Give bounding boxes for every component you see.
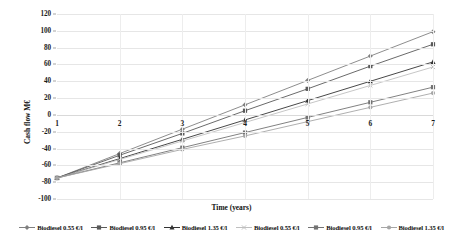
x-gridline — [182, 14, 183, 199]
y-axis-tick-label: 40 — [44, 77, 51, 85]
x-axis-tick-label: 7 — [431, 119, 435, 128]
legend-swatch-icon — [164, 224, 180, 231]
x-axis-tick-label: 4 — [243, 119, 247, 128]
y-axis-tick-label: 120 — [41, 10, 51, 18]
y-axis-tick-mark — [53, 14, 56, 15]
x-gridline — [120, 14, 121, 199]
x-axis-tick-label: 5 — [306, 119, 310, 128]
legend-label: Biodiesel 1.35 €/l — [399, 224, 444, 231]
legend-label: Biodiesel 1.35 €/l — [182, 224, 227, 231]
chart-legend: Biodiesel 0.55 €/lBiodiesel 0.95 €/lBiod… — [0, 224, 463, 231]
x-axis-tick-label: 6 — [368, 119, 372, 128]
legend-item[interactable]: Biodiesel 0.95 €/l — [308, 224, 371, 231]
legend-label: Biodiesel 0.55 €/l — [37, 224, 82, 231]
legend-swatch-icon — [91, 224, 107, 231]
y-axis-tick-mark — [53, 98, 56, 99]
y-axis-tick-mark — [53, 30, 56, 31]
legend-label: Biodiesel 0.95 €/l — [326, 224, 371, 231]
legend-item[interactable]: Biodiesel 1.35 €/l — [381, 224, 444, 231]
y-axis-tick-label: -20 — [42, 128, 51, 136]
legend-item[interactable]: Biodiesel 0.55 €/l — [19, 224, 82, 231]
x-gridline — [433, 14, 434, 199]
y-gridline — [57, 199, 433, 200]
y-axis-tick-mark — [53, 64, 56, 65]
legend-swatch-icon — [236, 224, 252, 231]
y-axis-tick-label: 60 — [44, 60, 51, 68]
x-gridline — [370, 14, 371, 199]
y-axis-tick-mark — [53, 148, 56, 149]
y-axis-tick-mark — [53, 47, 56, 48]
y-axis-tick-mark — [53, 199, 56, 200]
y-axis-tick-label: -80 — [42, 178, 51, 186]
cash-flow-line-chart: Cash flow M€ 120100806040200-20-40-60-80… — [0, 0, 463, 243]
legend-swatch-icon — [308, 224, 324, 231]
y-axis-tick-label: -100 — [38, 195, 51, 203]
y-axis-tick-mark — [53, 165, 56, 166]
y-axis-tick-label: -60 — [42, 161, 51, 169]
legend-label: Biodiesel 0.55 €/l — [254, 224, 299, 231]
plot-area: 120100806040200-20-40-60-80-1001234567 — [57, 14, 433, 199]
y-axis-tick-label: 20 — [44, 94, 51, 102]
y-axis-title: Cash flow M€ — [23, 100, 32, 144]
legend-item[interactable]: Biodiesel 0.55 €/l — [236, 224, 299, 231]
y-axis-tick-label: -40 — [42, 145, 51, 153]
y-axis-tick-label: 80 — [44, 44, 51, 52]
x-axis-tick-label: 1 — [55, 119, 59, 128]
y-axis-tick-mark — [53, 182, 56, 183]
x-gridline — [308, 14, 309, 199]
x-gridline — [245, 14, 246, 199]
y-axis-tick-label: 100 — [41, 27, 51, 35]
x-axis-title: Time (years) — [0, 203, 463, 212]
legend-item[interactable]: Biodiesel 0.95 €/l — [91, 224, 154, 231]
legend-item[interactable]: Biodiesel 1.35 €/l — [164, 224, 227, 231]
x-axis-tick-label: 2 — [118, 119, 122, 128]
y-axis-tick-mark — [53, 81, 56, 82]
x-axis-tick-label: 3 — [180, 119, 184, 128]
legend-swatch-icon — [381, 224, 397, 231]
y-axis-tick-mark — [53, 114, 56, 115]
series-marker — [55, 176, 59, 180]
y-axis-tick-mark — [53, 131, 56, 132]
y-axis-tick-label: 0 — [48, 111, 52, 119]
legend-label: Biodiesel 0.95 €/l — [109, 224, 154, 231]
legend-swatch-icon — [19, 224, 35, 231]
